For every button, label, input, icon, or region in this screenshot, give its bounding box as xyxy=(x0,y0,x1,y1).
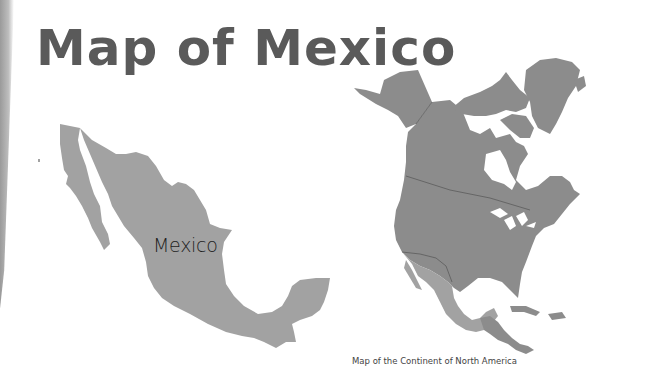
north-america-caption: Map of the Continent of North America xyxy=(352,356,517,366)
north-america-map xyxy=(340,50,640,370)
mexico-label: Mexico xyxy=(153,234,218,256)
page-edge-shadow xyxy=(0,0,14,386)
